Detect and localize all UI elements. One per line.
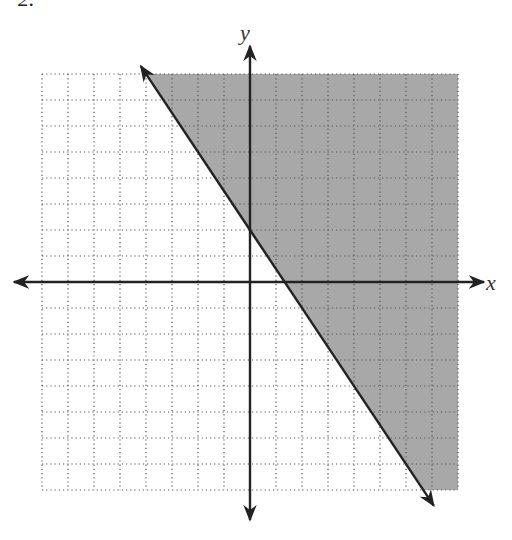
inequality-graph — [0, 0, 512, 540]
y-axis-label: y — [240, 20, 250, 46]
x-axis-label: x — [486, 270, 496, 296]
